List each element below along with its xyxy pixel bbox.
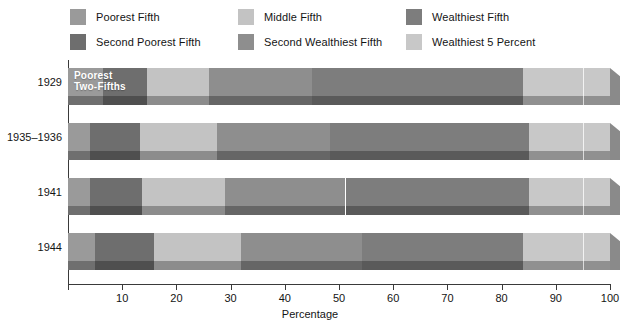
bar-end-cap bbox=[610, 233, 620, 270]
bar-segment-shadow bbox=[90, 206, 141, 215]
legend-item-poorest_fifth[interactable]: Poorest Fifth bbox=[70, 9, 160, 25]
stacked-bar[interactable]: Poorest Two-Fifths bbox=[68, 68, 610, 108]
x-tick-90 bbox=[556, 284, 557, 290]
bar-segment[interactable] bbox=[140, 123, 216, 151]
legend-label-wealthiest_fifth: Wealthiest Fifth bbox=[432, 11, 509, 23]
x-tick-10 bbox=[122, 284, 123, 290]
legend-swatch-wealthiest_fifth bbox=[406, 9, 422, 25]
bar-end-cap bbox=[610, 178, 620, 215]
x-tick-label-70: 70 bbox=[441, 292, 453, 304]
x-tick-label-10: 10 bbox=[116, 292, 128, 304]
x-tick-100 bbox=[610, 284, 611, 290]
bar-segment-shadow bbox=[225, 206, 346, 215]
bar-segment[interactable] bbox=[68, 178, 90, 206]
x-tick-label-50: 50 bbox=[333, 292, 345, 304]
x-tick-label-90: 90 bbox=[550, 292, 562, 304]
bar-segment[interactable] bbox=[312, 68, 523, 96]
y-axis-label-2: 1941 bbox=[38, 186, 62, 198]
x-tick-70 bbox=[447, 284, 448, 290]
x-tick-label-30: 30 bbox=[224, 292, 236, 304]
bar-segment[interactable] bbox=[529, 178, 610, 206]
bar-segment-shadow bbox=[154, 261, 242, 270]
bar-segment[interactable] bbox=[346, 178, 529, 206]
bar-top-face bbox=[68, 178, 610, 206]
legend-item-wealthiest_fifth[interactable]: Wealthiest Fifth bbox=[406, 9, 509, 25]
bar-top-face bbox=[68, 233, 610, 261]
marker-95-percent-shadow bbox=[583, 261, 584, 270]
legend-swatch-poorest_fifth bbox=[70, 9, 86, 25]
bar-segment[interactable] bbox=[68, 233, 95, 261]
bar-segment[interactable] bbox=[90, 123, 140, 151]
bar-segment-shadow bbox=[346, 206, 529, 215]
legend-label-poorest_fifth: Poorest Fifth bbox=[96, 11, 160, 23]
legend-swatch-middle_fifth bbox=[238, 9, 254, 25]
legend-label-second_wealthiest_fifth: Second Wealthiest Fifth bbox=[264, 36, 382, 48]
bar-segment-shadow bbox=[103, 96, 146, 105]
x-tick-label-60: 60 bbox=[387, 292, 399, 304]
legend-item-second_wealthiest_fifth[interactable]: Second Wealthiest Fifth bbox=[238, 34, 382, 50]
marker-95-percent bbox=[583, 68, 584, 96]
bar-front-face bbox=[68, 151, 610, 160]
bar-segment[interactable] bbox=[142, 178, 225, 206]
bar-front-face bbox=[68, 261, 610, 270]
marker-95-percent-shadow bbox=[583, 96, 584, 105]
bar-segment[interactable] bbox=[225, 178, 346, 206]
bar-segment-shadow bbox=[523, 96, 610, 105]
x-tick-label-40: 40 bbox=[279, 292, 291, 304]
legend-swatch-second_poorest_fifth bbox=[70, 34, 86, 50]
x-axis-title: Percentage bbox=[0, 308, 620, 320]
bar-segment[interactable] bbox=[330, 123, 529, 151]
x-tick-label-20: 20 bbox=[170, 292, 182, 304]
x-tick-50 bbox=[339, 284, 340, 290]
x-tick-label-80: 80 bbox=[495, 292, 507, 304]
bar-segment-shadow bbox=[209, 96, 312, 105]
bar-segment[interactable] bbox=[217, 123, 330, 151]
legend-swatch-wealthiest_5_percent bbox=[406, 34, 422, 50]
bar-segment[interactable] bbox=[147, 68, 209, 96]
stacked-bar[interactable] bbox=[68, 123, 610, 163]
legend-label-middle_fifth: Middle Fifth bbox=[264, 11, 322, 23]
y-axis-label-3: 1944 bbox=[38, 241, 62, 253]
bar-end-cap bbox=[610, 68, 620, 105]
bar-segment[interactable] bbox=[241, 233, 361, 261]
x-tick-60 bbox=[393, 284, 394, 290]
bar-segment[interactable] bbox=[95, 233, 154, 261]
x-tick-0 bbox=[68, 284, 69, 290]
bar-segment-shadow bbox=[95, 261, 154, 270]
bar-segment[interactable] bbox=[529, 123, 610, 151]
x-tick-80 bbox=[502, 284, 503, 290]
bar-segment-shadow bbox=[90, 151, 140, 160]
legend-item-middle_fifth[interactable]: Middle Fifth bbox=[238, 9, 322, 25]
bar-segment-shadow bbox=[140, 151, 216, 160]
bar-segment[interactable] bbox=[209, 68, 312, 96]
bar-segment-shadow bbox=[142, 206, 225, 215]
legend-label-wealthiest_5_percent: Wealthiest 5 Percent bbox=[432, 36, 535, 48]
legend-item-second_poorest_fifth[interactable]: Second Poorest Fifth bbox=[70, 34, 201, 50]
marker-95-percent bbox=[583, 123, 584, 151]
bar-top-face bbox=[68, 68, 610, 96]
chart-legend: Poorest FifthSecond Poorest FifthMiddle … bbox=[70, 8, 610, 56]
bar-front-face bbox=[68, 96, 610, 105]
y-axis-label-1: 1935–1936 bbox=[7, 131, 62, 143]
bar-segment-shadow bbox=[68, 151, 90, 160]
bar-front-face bbox=[68, 206, 610, 215]
stacked-bar[interactable] bbox=[68, 233, 610, 273]
bar-segment[interactable] bbox=[523, 68, 610, 96]
bar-segment-shadow bbox=[68, 206, 90, 215]
bar-segment-shadow bbox=[529, 151, 610, 160]
income-distribution-chart: Poorest FifthSecond Poorest FifthMiddle … bbox=[0, 0, 620, 324]
bar-segment[interactable] bbox=[362, 233, 524, 261]
bar-segment[interactable] bbox=[90, 178, 141, 206]
y-axis-label-0: 1929 bbox=[38, 76, 62, 88]
bar-segment[interactable] bbox=[68, 123, 90, 151]
in-bar-annotation: Poorest Two-Fifths bbox=[74, 70, 126, 92]
legend-item-wealthiest_5_percent[interactable]: Wealthiest 5 Percent bbox=[406, 34, 535, 50]
bar-segment-shadow bbox=[312, 96, 523, 105]
x-tick-20 bbox=[176, 284, 177, 290]
bar-segment-shadow bbox=[217, 151, 330, 160]
bar-segment[interactable] bbox=[523, 233, 610, 261]
stacked-bar[interactable] bbox=[68, 178, 610, 218]
x-tick-30 bbox=[231, 284, 232, 290]
bar-segment[interactable] bbox=[154, 233, 242, 261]
x-tick-40 bbox=[285, 284, 286, 290]
